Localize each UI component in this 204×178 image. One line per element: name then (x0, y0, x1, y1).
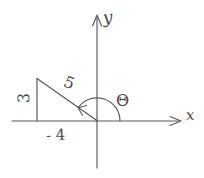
opposite-side-label: 3 (16, 93, 32, 104)
adjacent-side-label: - 4 (46, 128, 66, 144)
y-axis-label: y (102, 9, 113, 27)
theta-angle-label: Θ (116, 93, 129, 109)
x-axis-label: x (185, 108, 194, 124)
angle-arc (78, 98, 120, 121)
sketch-canvas: y x 3 5 - 4 Θ (0, 0, 204, 178)
coordinate-sketch-svg (0, 0, 204, 178)
